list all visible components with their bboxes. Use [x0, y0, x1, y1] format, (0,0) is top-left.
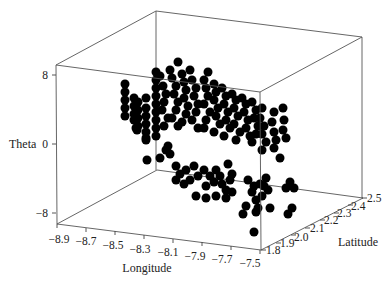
data-point [182, 166, 191, 175]
data-point [182, 86, 191, 95]
data-point [180, 94, 189, 103]
data-point [172, 162, 181, 171]
x-tick: −7.7 [212, 253, 233, 265]
data-point [220, 100, 229, 109]
data-point [152, 92, 161, 101]
data-point [132, 124, 141, 133]
data-point [188, 116, 197, 125]
y-tick: 2.0 [294, 231, 309, 243]
data-point [260, 122, 269, 131]
data-point [202, 116, 211, 125]
data-point [232, 136, 241, 145]
data-point [162, 146, 171, 155]
data-point [170, 90, 179, 99]
data-point [142, 104, 151, 113]
data-point [224, 160, 233, 169]
data-point [134, 98, 143, 107]
data-point [160, 122, 169, 131]
data-point [226, 176, 235, 185]
data-point [279, 104, 288, 113]
y-tick: 2.4 [351, 200, 366, 212]
data-point [264, 186, 273, 195]
data-point [248, 98, 257, 107]
data-point [184, 102, 193, 111]
data-point [142, 94, 151, 103]
data-point [230, 120, 239, 129]
y-tick: 2.1 [310, 222, 325, 234]
data-point [168, 114, 177, 123]
z-tick-0: 0 [42, 138, 48, 150]
x-axis-title: Longitude [122, 261, 171, 275]
data-point [186, 66, 195, 75]
z-axis-title: Theta [9, 137, 37, 151]
y-tick: 2.5 [367, 192, 382, 204]
x-tick: −8.9 [49, 233, 70, 245]
data-point [190, 92, 199, 101]
data-point [172, 176, 181, 185]
data-point [180, 180, 189, 189]
data-point [242, 124, 251, 133]
x-tick: −8.7 [76, 235, 97, 247]
data-point [159, 82, 168, 91]
data-point [270, 108, 279, 117]
data-point [121, 104, 130, 113]
data-point [121, 80, 130, 89]
z-tick-8: 8 [42, 69, 48, 81]
data-point [252, 208, 261, 217]
data-point [280, 116, 289, 125]
data-point [142, 120, 151, 129]
scatter-3d-chart: 8 0 −8 Theta −8.9 −8.7 −8.5 −8.3 −8.1 −7… [0, 0, 391, 281]
data-point [239, 210, 248, 219]
data-point [242, 202, 251, 211]
data-point [162, 90, 171, 99]
data-point [192, 84, 201, 93]
data-point [121, 112, 130, 121]
data-point [204, 68, 213, 77]
data-point [258, 130, 267, 139]
data-point [290, 184, 299, 193]
data-point [210, 96, 219, 105]
data-point [258, 146, 267, 155]
data-point [200, 124, 209, 133]
data-point [279, 126, 288, 135]
data-point [212, 192, 221, 201]
y-tick: 2.3 [337, 207, 352, 219]
data-point [218, 84, 227, 93]
data-point [121, 96, 130, 105]
data-point [210, 80, 219, 89]
data-point [276, 154, 285, 163]
data-point [216, 172, 225, 181]
y-axis-title: Latitude [338, 235, 378, 249]
data-points [121, 58, 299, 237]
data-point [266, 204, 275, 213]
data-point [248, 188, 257, 197]
data-point [152, 132, 161, 141]
x-tick: −8.1 [158, 246, 179, 258]
z-axis: 8 0 −8 Theta [9, 69, 56, 219]
data-point [202, 182, 211, 191]
data-point [142, 136, 151, 145]
data-point [250, 228, 259, 237]
data-point [258, 104, 267, 113]
data-point [268, 118, 277, 127]
data-point [190, 162, 199, 171]
data-point [282, 134, 291, 143]
data-point [156, 154, 165, 163]
data-point [272, 136, 281, 145]
data-point [158, 106, 167, 115]
data-point [220, 132, 229, 141]
data-point [240, 108, 249, 117]
data-point [222, 116, 231, 125]
data-point [200, 100, 209, 109]
data-point [121, 88, 130, 97]
x-tick: −8.3 [130, 243, 151, 255]
x-tick: −8.5 [103, 239, 124, 251]
data-point [160, 98, 169, 107]
data-point [134, 114, 143, 123]
data-point [172, 106, 181, 115]
data-point [248, 138, 257, 147]
data-point [174, 58, 183, 67]
data-point [228, 188, 237, 197]
data-point [192, 192, 201, 201]
y-tick: 1.8 [266, 244, 281, 256]
